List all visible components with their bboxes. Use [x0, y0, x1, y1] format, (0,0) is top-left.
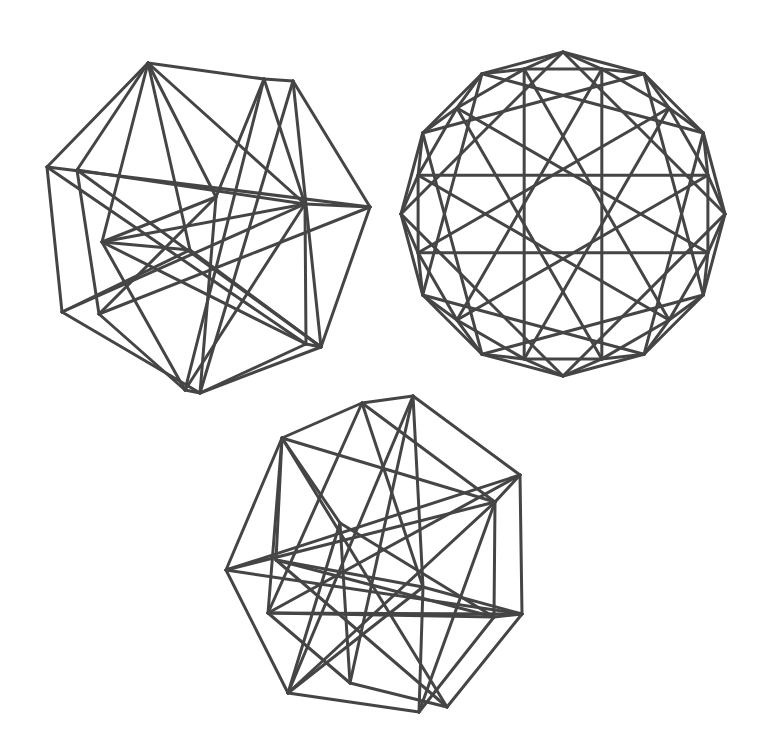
edge-line [200, 347, 321, 393]
edge-line [418, 175, 669, 320]
wireframe-figure-bottom [226, 396, 522, 712]
polyhedra-diagram-canvas [0, 0, 760, 754]
edge-line [524, 108, 669, 359]
edge-line [321, 207, 370, 347]
edge-line [62, 312, 200, 393]
edge-line [102, 197, 216, 242]
edge-line [419, 587, 423, 712]
edge-line [77, 170, 99, 314]
edge-line [457, 108, 708, 253]
edge-line [148, 63, 264, 79]
edge-line [148, 63, 216, 197]
edge-line [77, 63, 148, 170]
edge-line [47, 167, 62, 312]
edge-line [99, 314, 185, 390]
edge-line [457, 175, 708, 320]
edge-line [288, 587, 423, 693]
edge-line [282, 438, 340, 523]
edge-line [362, 403, 495, 502]
edge-line [494, 502, 495, 617]
wireframe-figure-top-right [401, 52, 725, 376]
edge-line [305, 204, 306, 344]
edge-line [268, 403, 362, 613]
edge-line [47, 63, 148, 167]
edge-line [520, 475, 522, 614]
edge-line [457, 69, 602, 320]
edge-line [413, 396, 520, 475]
wireframe-figure-top-left [47, 63, 370, 393]
edge-line [362, 396, 413, 403]
edge-line [457, 108, 602, 359]
edge-line [524, 69, 669, 320]
edge-line [185, 79, 264, 390]
edge-line [418, 108, 669, 253]
edge-line [264, 79, 293, 81]
edge-line [276, 560, 423, 587]
